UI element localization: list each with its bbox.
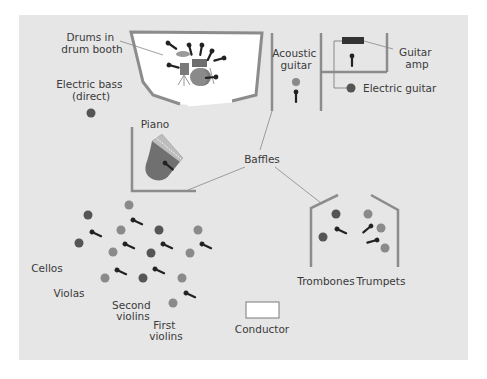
electric-bass-position	[87, 109, 96, 118]
acoustic-guitar-position	[292, 78, 300, 86]
guitar-amp-icon	[342, 37, 364, 44]
conductor-podium	[246, 302, 279, 318]
drums-label: Drums in drum booth	[61, 31, 123, 55]
electric-guitar-label: Electric guitar	[363, 82, 437, 94]
cellos-label: Cellos	[31, 262, 63, 274]
trumpets-label: Trumpets	[356, 275, 406, 287]
electric-guitar-position	[347, 84, 356, 93]
violas-label: Violas	[53, 287, 84, 299]
drum-booth	[131, 32, 262, 105]
conductor-label: Conductor	[235, 323, 290, 335]
studio-layout-diagram: Drums in drum booth Electric bass (direc…	[0, 0, 487, 379]
piano-label: Piano	[141, 118, 170, 130]
baffles-label: Baffles	[244, 153, 280, 165]
first-violins-label: First violins	[149, 319, 183, 342]
second-violins-label: Second violins	[112, 299, 154, 322]
trombones-label: Trombones	[296, 275, 354, 287]
